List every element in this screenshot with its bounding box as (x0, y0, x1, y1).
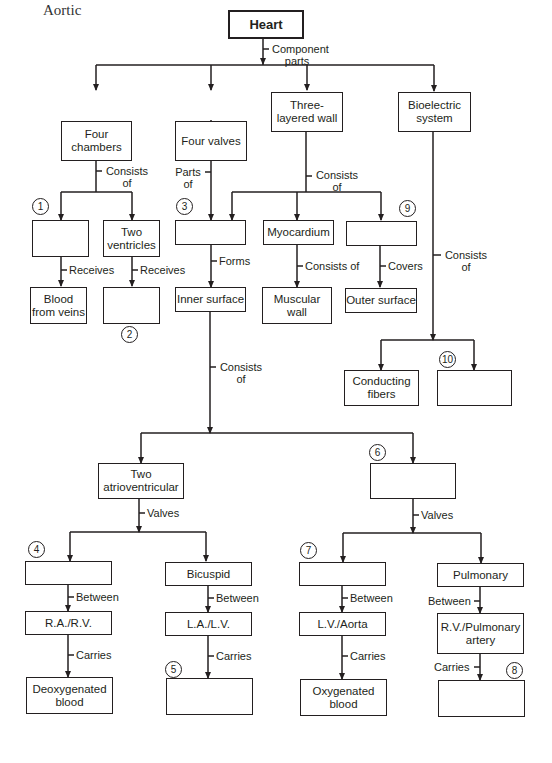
node-two-ventricles: Two ventricles (103, 220, 160, 257)
node-heart: Heart (228, 10, 304, 39)
edge-label-parts-of: Parts of (174, 166, 202, 190)
edge-label-six-valves: Valves (421, 509, 453, 521)
node-blank-4 (25, 561, 112, 585)
number-marker-2: 2 (121, 326, 138, 343)
node-inner-surface: Inner surface (175, 287, 246, 312)
node-pulmonary: Pulmonary (437, 563, 524, 587)
number-marker-6: 6 (369, 444, 386, 461)
node-two-atrioventricular: Two atrioventricular (98, 463, 184, 499)
number-marker-5: 5 (165, 661, 182, 678)
node-four-chambers: Four chambers (61, 121, 132, 161)
node-blank-5 (166, 678, 253, 715)
edge-label-forms: Forms (219, 255, 250, 267)
node-blood-from-veins: Blood from veins (30, 287, 87, 324)
edge-label-inner-consists-of: Consists of (218, 361, 264, 385)
node-deoxygenated-blood: Deoxygenated blood (26, 677, 113, 714)
node-bicuspid: Bicuspid (165, 562, 252, 586)
node-conducting-fibers: Conducting fibers (344, 370, 419, 406)
number-marker-10: 10 (439, 351, 456, 368)
node-bioelectric-system: Bioelectric system (398, 92, 471, 132)
node-three-layered-wall: Three-layered wall (271, 92, 343, 132)
edge-label-component-parts: Component parts (272, 43, 322, 67)
number-marker-1: 1 (32, 198, 49, 215)
edge-label-wall-consists-of: Consists of (314, 169, 360, 193)
node-blank-1 (32, 220, 89, 257)
node-blank-3 (175, 220, 246, 245)
node-blank-2 (103, 287, 160, 324)
node-muscular-wall: Muscular wall (262, 287, 332, 324)
edge-label-covers: Covers (388, 260, 423, 272)
node-blank-6 (370, 463, 456, 499)
node-four-valves: Four valves (175, 121, 247, 161)
node-rv-pulmonary-artery: R.V./Pulmonary artery (437, 613, 524, 654)
edge-label-carries-ra: Carries (76, 649, 111, 661)
edge-label-carries-lv: Carries (350, 650, 385, 662)
edge-label-carries-la: Carries (216, 650, 251, 662)
edge-label-av-valves: Valves (147, 507, 179, 519)
edge-label-between-bicuspid: Between (216, 592, 259, 604)
edge-label-chambers-consists-of: Consists of (104, 165, 150, 189)
node-blank-10 (437, 370, 512, 406)
node-blank-8 (438, 680, 525, 717)
node-blank-9 (346, 221, 417, 246)
edge-label-myo-consists-of: Consists of (305, 260, 359, 272)
number-marker-4: 4 (28, 541, 45, 558)
node-blank-7 (299, 562, 386, 586)
node-outer-surface: Outer surface (345, 288, 417, 313)
edge-label-between-pulmonary: Between (428, 595, 471, 607)
node-oxygenated-blood: Oxygenated blood (300, 679, 387, 716)
edge-label-carries-rv: Carries (434, 661, 469, 673)
node-lv-aorta: L.V./Aorta (299, 612, 386, 636)
edge-label-receives-2: Receives (140, 264, 185, 276)
node-la-lv: L.A./L.V. (165, 612, 252, 636)
edge-label-between-4: Between (76, 591, 119, 603)
edge-label-bio-consists-of: Consists of (443, 249, 489, 273)
edge-label-between-7: Between (350, 592, 393, 604)
number-marker-3: 3 (176, 198, 193, 215)
number-marker-8: 8 (506, 662, 523, 679)
node-ra-rv: R.A./R.V. (25, 611, 112, 635)
node-myocardium: Myocardium (263, 220, 334, 245)
number-marker-9: 9 (399, 200, 416, 217)
edge-label-receives-1: Receives (69, 264, 114, 276)
number-marker-7: 7 (300, 542, 317, 559)
